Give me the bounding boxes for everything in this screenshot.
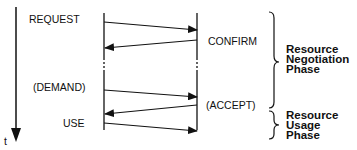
demand-arrow	[104, 90, 197, 97]
request-arrow	[104, 22, 197, 30]
phase-line: Phase	[286, 130, 338, 140]
negotiation-phase-label: Resource Negotiation Phase	[286, 44, 349, 74]
time-axis-label: t	[4, 136, 7, 147]
use-arrow	[104, 123, 197, 131]
time-axis-arrowhead-icon	[11, 128, 21, 142]
use-label: USE	[63, 118, 85, 129]
usage-phase-brace	[269, 111, 279, 139]
accept-arrow	[105, 105, 197, 114]
confirm-arrow	[105, 40, 197, 48]
usage-phase-label: Resource Usage Phase	[286, 110, 338, 140]
accept-label: (ACCEPT)	[206, 100, 256, 111]
confirm-label: CONFIRM	[208, 36, 257, 47]
negotiation-phase-brace	[269, 12, 279, 108]
demand-label: (DEMAND)	[33, 82, 86, 93]
phase-line: Phase	[286, 64, 349, 74]
request-label: REQUEST	[29, 14, 80, 25]
